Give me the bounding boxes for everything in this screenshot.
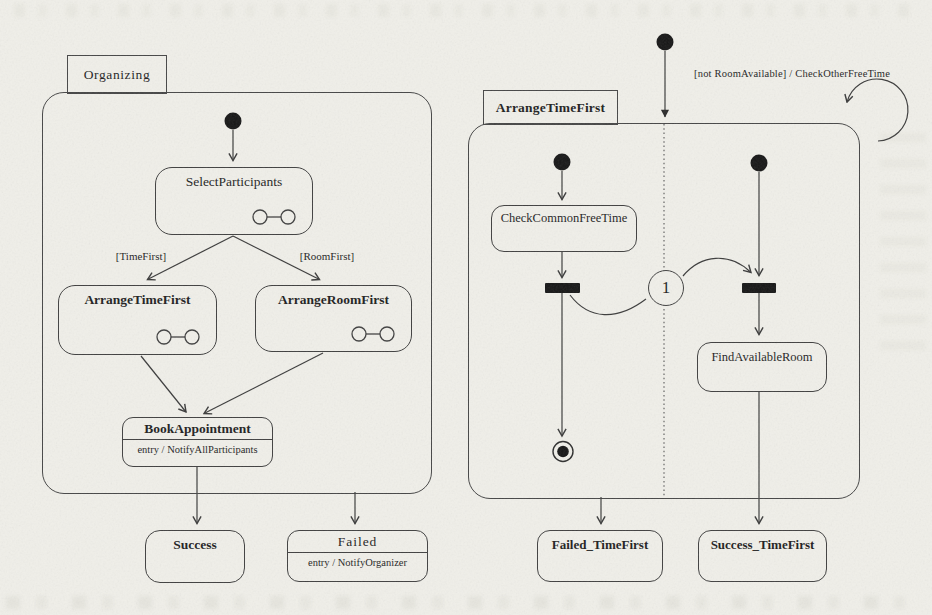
guard-roomfirst: [RoomFirst] bbox=[294, 250, 360, 262]
state-find-available-room: FindAvailableRoom bbox=[697, 342, 827, 392]
state-success-time-first: Success_TimeFirst bbox=[698, 530, 827, 582]
state-title: Failed_TimeFirst bbox=[538, 531, 662, 553]
guard-timefirst: [TimeFirst] bbox=[108, 250, 174, 262]
state-title: FindAvailableRoom bbox=[698, 343, 826, 365]
substate-icon bbox=[251, 207, 297, 227]
state-title: Success bbox=[146, 531, 244, 553]
composite-state-arrange-time-first bbox=[468, 123, 860, 499]
state-failed-time-first: Failed_TimeFirst bbox=[537, 530, 663, 582]
state-title: Success_TimeFirst bbox=[699, 531, 826, 553]
state-title: SelectParticipants bbox=[156, 168, 312, 190]
state-arrange-time-first: ArrangeTimeFirst bbox=[58, 285, 217, 355]
state-entry-action: entry / NotifyAllParticipants bbox=[123, 440, 272, 455]
scanned-statechart-page: Organizing SelectParticipants [TimeFirst… bbox=[0, 0, 932, 615]
state-title: ArrangeTimeFirst bbox=[59, 286, 216, 308]
substate-icon bbox=[155, 327, 201, 347]
tab-organizing: Organizing bbox=[67, 55, 167, 94]
connector-1-label: 1 bbox=[662, 278, 671, 298]
state-check-common-free-time: CheckCommonFreeTime bbox=[491, 205, 637, 252]
state-select-participants: SelectParticipants bbox=[155, 167, 313, 235]
state-success: Success bbox=[145, 530, 245, 583]
state-failed: Failed entry / NotifyOrganizer bbox=[287, 530, 428, 582]
substate-icon bbox=[350, 324, 396, 344]
state-arrange-room-first: ArrangeRoomFirst bbox=[255, 285, 412, 352]
tab-arrange-time-first: ArrangeTimeFirst bbox=[483, 90, 618, 125]
state-book-appointment: BookAppointment entry / NotifyAllPartici… bbox=[122, 417, 273, 467]
tab-organizing-label: Organizing bbox=[84, 67, 151, 83]
state-title: ArrangeRoomFirst bbox=[256, 286, 411, 308]
self-transition-label: [not RoomAvailable] / CheckOtherFreeTime bbox=[694, 68, 890, 79]
tab-arrange-time-first-label: ArrangeTimeFirst bbox=[496, 100, 605, 116]
initial-state-icon bbox=[657, 34, 674, 51]
connector-1: 1 bbox=[648, 270, 684, 306]
state-title: Failed bbox=[288, 531, 427, 553]
state-title: CheckCommonFreeTime bbox=[492, 206, 636, 226]
state-entry-action: entry / NotifyOrganizer bbox=[288, 553, 427, 568]
state-title: BookAppointment bbox=[123, 418, 272, 440]
